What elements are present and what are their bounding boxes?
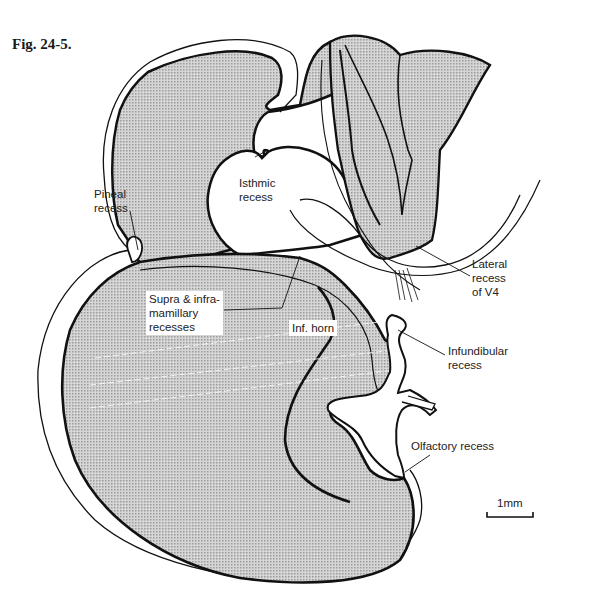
scale-bar-label: 1mm — [497, 496, 523, 510]
scale-bar — [487, 512, 533, 517]
label-infundibular-recess: Infundibular recess — [448, 344, 508, 372]
leader-lateral-v4 — [416, 246, 470, 276]
label-isthmic-recess: Isthmic recess — [239, 176, 275, 204]
label-supra-infra-mamillary: Supra & infra- mamillary recesses — [146, 291, 223, 335]
leader-infundibular — [398, 330, 445, 355]
label-lateral-recess-v4: Lateral recess of V4 — [472, 257, 507, 299]
pineal-notch — [127, 237, 142, 262]
label-pineal-recess: Pineal recess — [94, 187, 128, 215]
label-olfactory-recess: Olfactory recess — [411, 439, 494, 453]
leader-olfactory — [405, 455, 430, 472]
isthmic-cavity — [208, 147, 362, 255]
label-inf-horn: Inf. horn — [289, 320, 337, 336]
